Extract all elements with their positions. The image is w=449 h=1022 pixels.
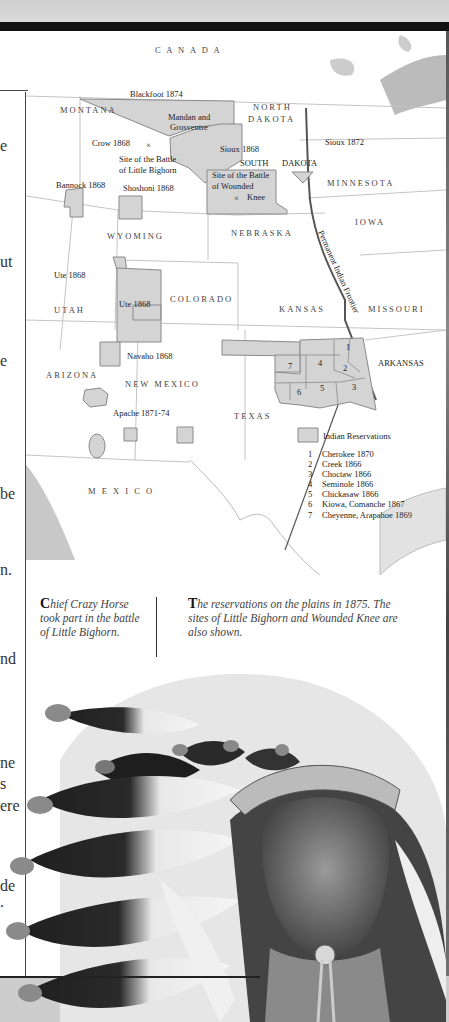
legend-swatch <box>298 428 318 442</box>
sioux-1872-label: Sioux 1872 <box>325 137 364 147</box>
bannock-reservation <box>64 188 83 217</box>
crow-label: Crow 1868 <box>92 138 130 148</box>
south-dakota-label-1: SOUTH <box>240 158 268 168</box>
north-dakota-label-1: NORTH <box>253 102 292 112</box>
iowa-label: IOWA <box>355 217 385 227</box>
apache-label: Apache 1871-74 <box>113 408 170 418</box>
column-top-rule <box>0 90 28 91</box>
legend-item: Kiowa, Comanche 1867 <box>322 499 404 509</box>
sioux-1872-reservation <box>292 172 313 183</box>
territory-number: 6 <box>297 387 301 397</box>
sioux-1868-label: Sioux 1868 <box>220 144 259 154</box>
north-dakota-label-2: DAKOTA <box>248 114 295 124</box>
legend-number: 5 <box>308 489 312 499</box>
mandan-label-1: Mandan and <box>168 112 211 122</box>
shoshoni-label: Shoshoni 1868 <box>123 183 174 193</box>
mexico-label: M E X I C O <box>88 486 154 496</box>
navaho-reservation <box>100 342 120 366</box>
body-text-fragment: e <box>0 352 7 370</box>
bone-ornament <box>315 945 335 965</box>
coast-pacific <box>26 465 75 560</box>
legend-item: Creek 1866 <box>322 459 361 469</box>
territory-number: 2 <box>343 363 347 373</box>
territory-number: 3 <box>352 382 356 392</box>
shoshoni-reservation <box>119 196 142 219</box>
wounded-knee-label-2: of Wounded <box>212 181 254 191</box>
reservations-map: C A N A D A M E X I C O MONTANA NORTH DA… <box>26 31 446 576</box>
arkansas-label: ARKANSAS <box>378 358 424 368</box>
caption-text: hief Crazy Horse took part in the battle… <box>40 598 140 638</box>
frontier-label: Permanent Indian Frontier <box>316 229 362 315</box>
new-mexico-label: NEW MEXICO <box>125 379 200 389</box>
apache-reservation-2 <box>177 427 193 443</box>
caption-text: he reservations on the plains in 1875. T… <box>188 598 398 638</box>
page-top-border <box>0 22 449 31</box>
ute-colorado-label: Ute 1868 <box>119 299 150 309</box>
legend-list: 1 Cherokee 1870 2 Creek 1866 3 Choctaw 1… <box>308 449 412 520</box>
lake-shape <box>398 35 411 52</box>
legend-number: 1 <box>308 449 312 459</box>
body-text-fragment: ut <box>0 253 12 271</box>
territory-number: 7 <box>288 361 292 371</box>
apache-reservation-1 <box>124 428 137 441</box>
body-text-fragment: n. <box>0 561 12 579</box>
canada-label: C A N A D A <box>155 45 222 55</box>
legend-item: Chickasaw 1866 <box>322 489 378 499</box>
lake-shape <box>330 58 354 75</box>
ute-utah-label: Ute 1868 <box>54 270 85 280</box>
wounded-knee-label-1: Site of the Battle <box>212 170 270 180</box>
wounded-knee-label-3: Knee <box>247 192 265 202</box>
legend-item: Cheyenne, Arapahoe 1869 <box>322 510 412 520</box>
legend-number: 7 <box>308 510 312 520</box>
legend-item: Choctaw 1866 <box>322 469 371 479</box>
colorado-label: COLORADO <box>170 294 233 304</box>
cherokee-outlet <box>222 340 300 356</box>
legend-item: Seminole 1866 <box>322 479 373 489</box>
chief-crazy-horse-photo <box>0 650 449 1022</box>
bannock-label: Bannock 1868 <box>56 180 105 190</box>
missouri-label: MISSOURI <box>368 304 425 314</box>
legend-number: 3 <box>308 469 312 479</box>
rio-grande <box>190 460 320 575</box>
nebraska-label: NEBRASKA <box>231 228 293 238</box>
bottom-border <box>0 976 260 978</box>
mandan-label-2: Grosventre <box>170 122 208 132</box>
navaho-label: Navaho 1868 <box>127 351 173 361</box>
body-text-fragment: be <box>0 485 15 503</box>
kansas-label: KANSAS <box>279 304 325 314</box>
little-bighorn-label-1: Site of the Battle <box>119 154 177 164</box>
wounded-knee-marker: × <box>234 193 239 203</box>
south-dakota-label-2: DAKOTA <box>282 158 318 168</box>
reservation-shape <box>89 434 105 458</box>
legend-number: 4 <box>308 479 313 489</box>
blackfoot-label: Blackfoot 1874 <box>130 89 183 99</box>
arizona-label: ARIZONA <box>46 370 98 380</box>
territory-number: 5 <box>320 383 324 393</box>
legend-item: Cherokee 1870 <box>322 449 374 459</box>
photo-caption: Chief Crazy Horse took part in the battl… <box>40 597 150 639</box>
utah-label: UTAH <box>54 305 85 315</box>
territory-number: 1 <box>346 342 350 352</box>
wyoming-label: WYOMING <box>107 231 164 241</box>
reservation-shape <box>83 388 108 407</box>
caption-dropcap: C <box>40 596 50 611</box>
body-text-fragment: e <box>0 137 7 155</box>
minnesota-label: MINNESOTA <box>327 178 394 188</box>
map-caption: The reservations on the plains in 1875. … <box>188 597 403 639</box>
caption-divider <box>156 597 157 657</box>
legend-title: Indian Reservations <box>323 431 391 441</box>
texas-label: TEXAS <box>234 411 271 421</box>
top-background <box>0 0 449 22</box>
montana-label: MONTANA <box>60 105 117 115</box>
little-bighorn-marker: × <box>146 140 151 150</box>
legend-number: 2 <box>308 459 312 469</box>
little-bighorn-label-2: of Little Bighorn <box>119 165 177 175</box>
caption-dropcap: T <box>188 596 197 611</box>
legend-number: 6 <box>308 499 312 509</box>
